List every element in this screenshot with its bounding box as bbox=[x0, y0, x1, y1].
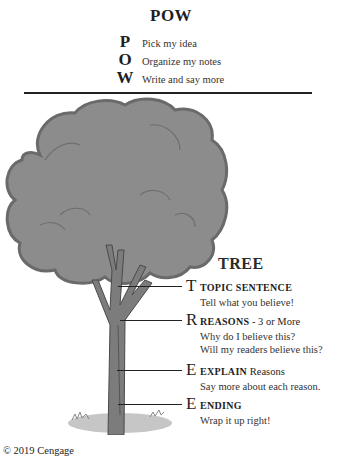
tree-heading: TOPIC SENTENCE bbox=[200, 282, 292, 293]
tree-item-explain: EEXPLAIN Reasons Say more about each rea… bbox=[186, 360, 320, 393]
pow-title: POW bbox=[150, 6, 192, 26]
tree-letter: R bbox=[186, 310, 200, 330]
leader-line-t bbox=[118, 286, 182, 287]
tree-line: Tell what you believe! bbox=[200, 296, 294, 309]
tree-suffix: - 3 or More bbox=[249, 316, 300, 327]
tree-line: Will my readers believe this? bbox=[200, 343, 323, 356]
tree-heading: EXPLAIN bbox=[200, 366, 247, 377]
tree-line: Say more about each reason. bbox=[200, 380, 320, 393]
tree-item-reasons: RREASONS - 3 or More Why do I believe th… bbox=[186, 310, 323, 356]
tree-heading: ENDING bbox=[200, 400, 242, 411]
tree-item-ending: EENDING Wrap it up right! bbox=[186, 394, 270, 427]
tree-heading: REASONS bbox=[200, 316, 249, 327]
tree-letter: T bbox=[186, 276, 200, 296]
pow-letter: W bbox=[114, 68, 136, 88]
tree-title: TREE bbox=[218, 255, 264, 273]
tree-line: Why do I believe this? bbox=[200, 330, 323, 343]
leader-line-r bbox=[120, 320, 182, 321]
copyright: © 2019 Cengage bbox=[3, 445, 74, 456]
pow-letter: P bbox=[114, 32, 136, 52]
pow-item-w: W Write and say more bbox=[114, 68, 224, 88]
tree-letter: E bbox=[186, 394, 200, 414]
pow-item-o: O Organize my notes bbox=[114, 50, 221, 70]
tree-item-topic: TTOPIC SENTENCE Tell what you believe! bbox=[186, 276, 294, 309]
pow-item-p: P Pick my idea bbox=[114, 32, 197, 52]
tree-line: Wrap it up right! bbox=[200, 414, 270, 427]
pow-text: Organize my notes bbox=[142, 56, 221, 67]
tree-letter: E bbox=[186, 360, 200, 380]
leader-line-e2 bbox=[118, 404, 182, 405]
leader-line-e1 bbox=[117, 370, 182, 371]
foliage bbox=[7, 99, 227, 283]
pow-text: Write and say more bbox=[142, 74, 224, 85]
pow-text: Pick my idea bbox=[142, 38, 197, 49]
section-divider bbox=[24, 92, 312, 94]
tree-suffix: Reasons bbox=[247, 366, 285, 377]
pow-letter: O bbox=[114, 50, 136, 70]
